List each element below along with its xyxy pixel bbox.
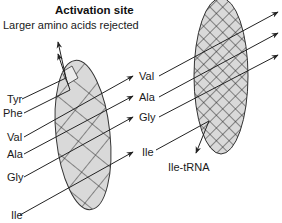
diagram-subtitle: Larger amino acids rejected — [3, 19, 139, 32]
diagram-canvas: Activation site Larger amino acids rejec… — [0, 0, 282, 223]
label-tyr: Tyr — [7, 93, 22, 105]
label-ile-trna: Ile-tRNA — [168, 161, 210, 173]
label-phe: Phe — [3, 107, 23, 119]
label-val-left: Val — [7, 131, 22, 143]
label-ile-left: Ile — [11, 209, 23, 221]
label-ala-right: Ala — [139, 91, 155, 103]
label-val-right: Val — [139, 70, 154, 82]
editing-site-sieve — [194, 0, 248, 154]
diagram-title: Activation site — [55, 4, 134, 17]
label-gly-right: Gly — [139, 111, 156, 123]
label-gly-left: Gly — [7, 171, 24, 183]
label-ala-left: Ala — [7, 148, 23, 160]
label-ile-right: Ile — [142, 146, 154, 158]
